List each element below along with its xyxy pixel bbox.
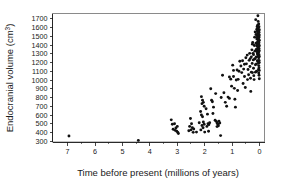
data-point [258, 61, 261, 64]
data-point [240, 71, 243, 74]
data-point [246, 78, 249, 81]
data-point [232, 69, 235, 72]
x-tick-label: 1 [230, 147, 234, 156]
data-point [258, 34, 261, 37]
data-point [250, 48, 253, 51]
data-point [228, 76, 231, 79]
y-tick-label: 1200 [32, 58, 48, 67]
data-point [258, 28, 261, 31]
y-tick-label: 1500 [32, 32, 48, 41]
data-point [203, 131, 206, 134]
data-point [205, 125, 208, 128]
y-axis-title-close: ) [4, 24, 15, 27]
data-point [221, 74, 224, 77]
data-point [187, 129, 190, 132]
x-tick-label: 0 [258, 147, 262, 156]
data-point [219, 134, 222, 137]
data-point [254, 18, 257, 21]
x-axis-tick-labels: 76543210 [66, 147, 262, 156]
y-tick-label: 1100 [32, 67, 47, 76]
data-point [243, 75, 246, 78]
x-axis-ticks [53, 142, 265, 146]
data-point [257, 23, 260, 26]
data-point [214, 92, 217, 95]
data-point [249, 77, 252, 80]
data-point [238, 70, 241, 73]
data-point [195, 131, 198, 134]
data-point [137, 139, 140, 142]
data-point [220, 96, 223, 99]
data-point [241, 59, 244, 62]
x-tick-label: 4 [148, 147, 152, 156]
data-point [206, 113, 209, 116]
data-point [188, 125, 191, 128]
data-point [251, 62, 254, 65]
data-point [247, 73, 250, 76]
data-point [244, 86, 247, 89]
data-point [199, 110, 202, 113]
x-tick-label: 7 [66, 147, 70, 156]
chart-canvas: 76543210 3004005006007008009001000110012… [0, 0, 283, 187]
data-point [246, 54, 249, 57]
endocranial-volume-scatter-figure: 76543210 3004005006007008009001000110012… [0, 0, 283, 187]
x-tick-label: 3 [175, 147, 179, 156]
data-point [251, 43, 254, 46]
data-point [203, 105, 206, 108]
y-axis-title: Endocranial volume (cm3) [4, 24, 15, 133]
y-tick-label: 1400 [32, 41, 48, 50]
y-tick-label: 700 [36, 102, 48, 111]
data-point [258, 39, 261, 42]
data-point [228, 97, 231, 100]
data-point [237, 78, 240, 81]
data-point [216, 125, 219, 128]
data-point [238, 60, 241, 63]
data-point [201, 102, 204, 105]
data-point [257, 20, 260, 23]
y-axis-title-base: Endocranial volume (cm [4, 30, 15, 132]
x-tick-label: 5 [120, 147, 124, 156]
data-point [231, 64, 234, 67]
data-point [211, 100, 214, 103]
data-point [192, 131, 195, 134]
data-point [258, 66, 261, 69]
data-point [225, 105, 228, 108]
data-point [201, 115, 204, 118]
data-point [211, 112, 214, 115]
y-tick-label: 400 [36, 128, 48, 137]
data-point [208, 121, 211, 124]
data-point [247, 68, 250, 71]
data-point [252, 67, 255, 70]
y-tick-label: 1300 [32, 49, 48, 58]
data-point [177, 132, 180, 135]
data-point [258, 55, 261, 58]
data-point [198, 121, 201, 124]
x-tick-label: 6 [93, 147, 97, 156]
data-point [218, 122, 221, 125]
data-point [212, 106, 215, 109]
data-point [250, 71, 253, 74]
data-point [68, 135, 71, 138]
data-point [209, 87, 212, 90]
data-point [233, 98, 236, 101]
x-tick-label: 2 [203, 147, 207, 156]
y-tick-label: 1600 [32, 23, 48, 32]
y-tick-label: 500 [36, 119, 48, 128]
data-point [249, 90, 252, 93]
data-point [258, 31, 261, 34]
data-point [190, 122, 193, 125]
data-point [253, 58, 256, 61]
x-axis-title: Time before present (millions of years) [77, 167, 239, 178]
data-point [176, 125, 179, 128]
data-point [244, 56, 247, 59]
y-axis-ticks [50, 14, 53, 143]
y-tick-label: 900 [36, 84, 48, 93]
data-point [258, 41, 261, 44]
data-point [242, 68, 245, 71]
data-point [254, 30, 257, 33]
data-point [258, 69, 261, 72]
data-point [253, 78, 256, 81]
data-point [224, 101, 227, 104]
data-point [242, 82, 245, 85]
y-tick-label: 300 [36, 137, 48, 146]
data-point [249, 65, 252, 68]
